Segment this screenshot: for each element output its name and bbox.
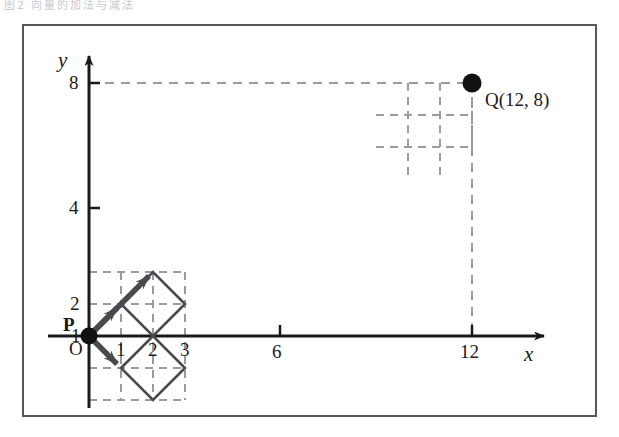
- q-guide-lines: [89, 83, 472, 336]
- y-tick-label-8: 8: [69, 73, 79, 92]
- x-minor-label-1: 1: [116, 340, 126, 359]
- page-cutoff-text-strip: 图2 向量的加法与减法: [0, 0, 619, 13]
- x-tick-label-6: 6: [272, 342, 282, 361]
- point-Q: [463, 74, 482, 93]
- x-minor-label-2: 2: [148, 340, 158, 359]
- figure-frame: y x 8 4 2 1 P O 1 2 3 6 12 Q(12, 8): [22, 24, 597, 417]
- x-tick-label-12: 12: [460, 342, 479, 361]
- x-axis-label: x: [524, 344, 533, 365]
- grid-patch-q: [376, 83, 472, 179]
- figure-root: 图2 向量的加法与减法: [0, 0, 619, 437]
- y-tick-label-4: 4: [69, 198, 79, 217]
- y-minor-label-2: 2: [70, 294, 80, 313]
- page-cutoff-text: 图2 向量的加法与减法: [4, 0, 136, 12]
- point-P: [81, 328, 98, 345]
- x-minor-label-3: 3: [180, 340, 190, 359]
- plot-svg: [24, 26, 599, 419]
- point-label-P: P: [63, 315, 75, 334]
- y-axis-label: y: [58, 50, 67, 71]
- point-label-Q: Q(12, 8): [485, 90, 549, 109]
- origin-label: O: [69, 339, 83, 358]
- coordinate-plot: y x 8 4 2 1 P O 1 2 3 6 12 Q(12, 8): [24, 26, 599, 419]
